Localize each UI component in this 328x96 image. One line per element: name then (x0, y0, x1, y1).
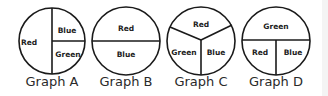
graph-b-title: Graph B (88, 74, 164, 89)
graph-c-label-red: Red (193, 20, 209, 29)
graph-a-label-red: Red (21, 38, 37, 47)
graph-b (92, 7, 160, 75)
graph-c-label-blue: Blue (207, 48, 226, 57)
graph-c-title: Graph C (163, 74, 239, 89)
graph-d (242, 7, 310, 75)
graph-d-label-green: Green (263, 22, 288, 31)
graph-b-label-red: Red (118, 24, 134, 33)
graph-a-label-green: Green (55, 50, 80, 59)
graph-d-label-red: Red (252, 48, 268, 57)
graph-c-label-green: Green (171, 48, 196, 57)
graph-d-label-blue: Blue (284, 48, 303, 57)
graph-a-title: Graph A (14, 74, 90, 89)
graph-c (167, 7, 235, 75)
graph-b-label-blue: Blue (117, 50, 136, 59)
graph-d-title: Graph D (238, 74, 314, 89)
graph-a-label-blue: Blue (58, 26, 77, 35)
